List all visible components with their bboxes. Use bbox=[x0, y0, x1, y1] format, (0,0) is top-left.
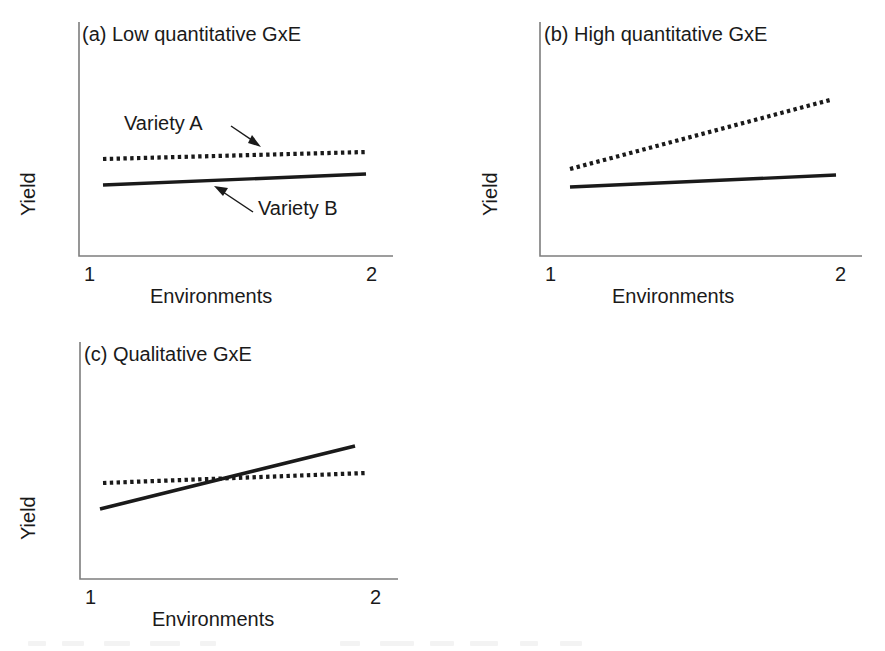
scan-artifact bbox=[430, 641, 454, 646]
panel-c-title: (c) Qualitative GxE bbox=[84, 344, 252, 364]
panel-b-y-axis-label: Yield bbox=[480, 172, 500, 216]
panel-c-y-axis-label: Yield bbox=[18, 496, 38, 540]
panel-b-xtick-2: 2 bbox=[835, 264, 846, 284]
panel-b: (b) High quantitative GxE Yield 1 2 Envi… bbox=[460, 0, 885, 320]
scan-artifact bbox=[470, 641, 498, 646]
panel-a-plot bbox=[0, 0, 460, 320]
scan-artifact bbox=[104, 641, 130, 646]
panel-a-annotation-variety-b: Variety B bbox=[258, 198, 338, 218]
panel-a-xtick-1: 1 bbox=[84, 264, 95, 284]
panel-c-xtick-2: 2 bbox=[370, 587, 381, 607]
panel-c: (c) Qualitative GxE Yield 1 2 Environmen… bbox=[0, 320, 460, 651]
scan-artifact bbox=[520, 641, 538, 646]
panel-a-arrow-variety-b bbox=[214, 186, 253, 212]
panel-a-title: (a) Low quantitative GxE bbox=[82, 24, 301, 44]
panel-a-axes bbox=[79, 22, 393, 256]
scan-artifact bbox=[380, 641, 414, 646]
panel-b-xtick-1: 1 bbox=[545, 264, 556, 284]
panel-c-plot bbox=[0, 320, 460, 651]
panel-b-series-variety-b bbox=[570, 175, 836, 187]
scan-artifact bbox=[62, 641, 84, 646]
panel-a-annotation-variety-a: Variety A bbox=[124, 113, 203, 133]
panel-a-x-axis-label: Environments bbox=[150, 286, 272, 306]
panel-b-axes bbox=[540, 22, 862, 256]
panel-a-series-variety-a bbox=[103, 152, 366, 159]
panel-b-title: (b) High quantitative GxE bbox=[544, 24, 767, 44]
panel-a-y-axis-label: Yield bbox=[18, 172, 38, 216]
panel-c-axes bbox=[80, 342, 398, 579]
panel-a: (a) Low quantitative GxE Variety A Varie… bbox=[0, 0, 460, 320]
panel-b-x-axis-label: Environments bbox=[612, 286, 734, 306]
panel-a-series-variety-b bbox=[103, 174, 366, 185]
scan-artifact bbox=[28, 641, 46, 646]
panel-a-xtick-2: 2 bbox=[366, 264, 377, 284]
scan-artifact bbox=[200, 641, 216, 646]
scan-artifact bbox=[340, 641, 360, 646]
scan-artifact bbox=[560, 641, 582, 646]
figure-gxe-interaction-panels: (a) Low quantitative GxE Variety A Varie… bbox=[0, 0, 885, 651]
panel-b-series-variety-a bbox=[570, 100, 830, 169]
panel-a-arrow-variety-a bbox=[231, 126, 261, 147]
panel-c-series-variety-b bbox=[100, 446, 355, 509]
panel-c-xtick-1: 1 bbox=[85, 587, 96, 607]
panel-b-plot bbox=[460, 0, 885, 320]
panel-c-x-axis-label: Environments bbox=[152, 609, 274, 629]
scan-artifact bbox=[150, 641, 180, 646]
